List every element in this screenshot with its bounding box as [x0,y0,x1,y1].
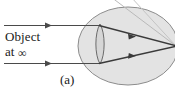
infinity-icon: ∞ [18,46,27,60]
crystalline-lens [96,24,104,64]
lower-incident-ray-arrowhead [45,61,52,67]
upper-incident-ray-arrowhead [45,23,52,29]
eyeball-sphere [78,7,175,85]
at-text: at [5,44,18,59]
panel-caption: (a) [60,73,74,86]
object-label: Object [5,30,40,43]
eye-ray-diagram-figure: Object at ∞ (a) [0,0,175,93]
object-distance-label: at ∞ [5,45,27,58]
